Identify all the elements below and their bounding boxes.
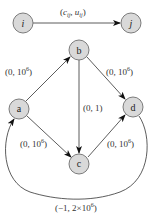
label-a-c: (0, 106) bbox=[20, 138, 47, 149]
label-b-d: (0, 106) bbox=[106, 66, 133, 77]
node-c: c bbox=[69, 154, 89, 174]
network-flow-diagram: (cij, uij) i j (0, 106) (0, 106) (0, 1) … bbox=[0, 0, 153, 219]
edge-b-d bbox=[87, 57, 125, 99]
label-b-c: (0, 1) bbox=[83, 103, 103, 113]
node-d: d bbox=[123, 97, 143, 117]
legend-edge: (cij, uij) bbox=[33, 7, 120, 23]
label-a-b: (0, 106) bbox=[5, 66, 32, 77]
svg-text:i: i bbox=[22, 18, 25, 29]
svg-text:d: d bbox=[131, 102, 136, 113]
edge-a-b bbox=[26, 57, 70, 101]
edge-a-c bbox=[27, 116, 71, 157]
label-d-c: (0, 106) bbox=[107, 138, 134, 149]
node-b: b bbox=[69, 40, 89, 60]
node-a: a bbox=[9, 99, 29, 119]
legend-edge-label: (cij, uij) bbox=[60, 7, 86, 18]
legend-node-i: i bbox=[13, 13, 33, 33]
diagram-canvas: (cij, uij) i j (0, 106) (0, 106) (0, 1) … bbox=[0, 0, 153, 219]
edge-d-c bbox=[88, 115, 125, 157]
label-d-a: (−1, 2×106) bbox=[55, 202, 97, 213]
svg-text:b: b bbox=[77, 45, 82, 56]
legend-node-j: j bbox=[121, 13, 141, 33]
svg-text:a: a bbox=[17, 103, 22, 114]
svg-text:c: c bbox=[77, 158, 82, 169]
